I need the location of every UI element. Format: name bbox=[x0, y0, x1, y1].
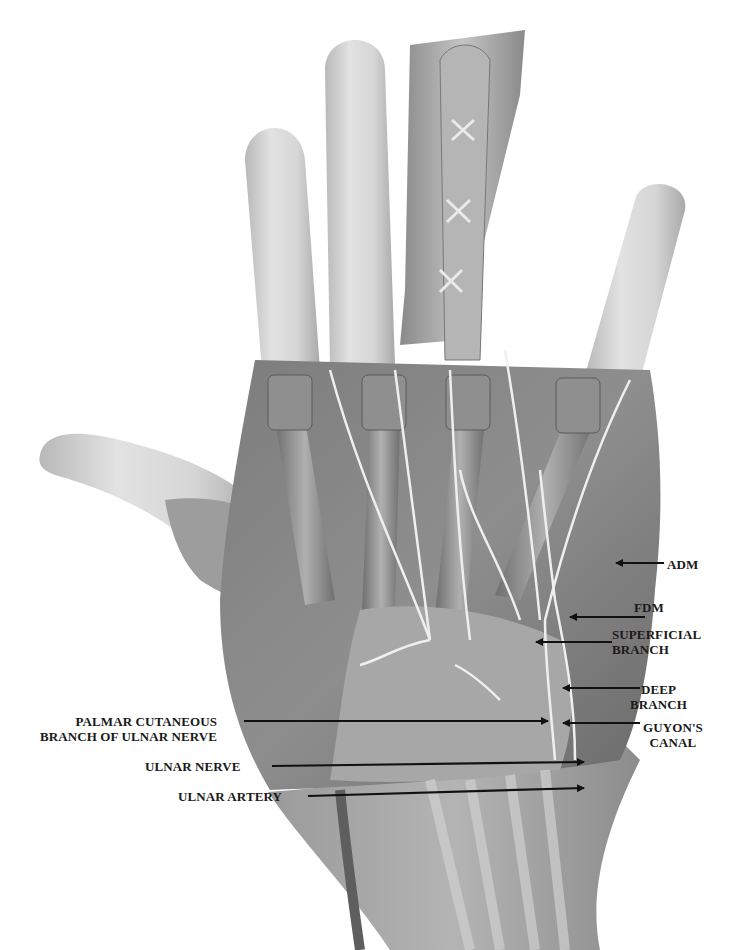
label-deep-branch: DEEP BRANCH bbox=[630, 682, 687, 712]
carpal-region bbox=[330, 606, 572, 782]
little-finger-shape bbox=[585, 184, 685, 380]
label-adm: ADM bbox=[667, 557, 698, 572]
label-fdm: FDM bbox=[634, 600, 664, 615]
label-ulnar-nerve: ULNAR NERVE bbox=[145, 759, 241, 774]
label-palmar-cutaneous-branch: PALMAR CUTANEOUS BRANCH OF ULNAR NERVE bbox=[40, 714, 217, 744]
label-guyons-canal: GUYON'S CANAL bbox=[643, 720, 703, 750]
middle-finger-shape bbox=[325, 40, 395, 365]
label-superficial-branch: SUPERFICIAL BRANCH bbox=[612, 627, 701, 657]
anatomy-figure: ADM FDM SUPERFICIAL BRANCH DEEP BRANCH G… bbox=[0, 0, 741, 950]
label-ulnar-artery: ULNAR ARTERY bbox=[178, 789, 282, 804]
hand-illustration bbox=[0, 0, 741, 950]
index-finger-shape bbox=[245, 128, 320, 370]
